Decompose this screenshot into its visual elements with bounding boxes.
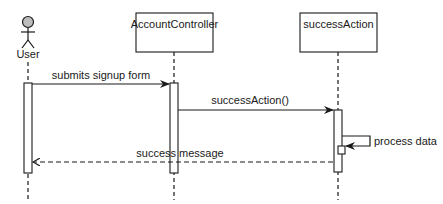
participant-label: User xyxy=(16,48,40,60)
activation-bar xyxy=(170,83,178,173)
message-success-message: success message xyxy=(33,147,333,162)
message-success-action-call: successAction() xyxy=(178,94,333,110)
message-process-data: process data xyxy=(338,135,438,154)
message-label: successAction() xyxy=(211,94,289,106)
sequence-diagram: User AccountController successAction sub… xyxy=(0,0,443,204)
participant-account-controller: AccountController xyxy=(131,13,219,200)
actor-icon xyxy=(21,17,35,49)
participant-user: User xyxy=(16,17,40,201)
participant-label: AccountController xyxy=(131,18,219,30)
message-label: success message xyxy=(136,147,223,159)
nested-activation xyxy=(338,146,345,154)
participant-success-action: successAction xyxy=(300,13,377,200)
message-label: submits signup form xyxy=(52,69,150,81)
activation-bar xyxy=(24,83,32,173)
activation-bar xyxy=(334,110,342,172)
participant-label: successAction xyxy=(303,18,373,30)
message-submits-signup-form: submits signup form xyxy=(32,69,169,84)
message-label: process data xyxy=(374,135,438,147)
self-message-arrow xyxy=(342,136,370,146)
